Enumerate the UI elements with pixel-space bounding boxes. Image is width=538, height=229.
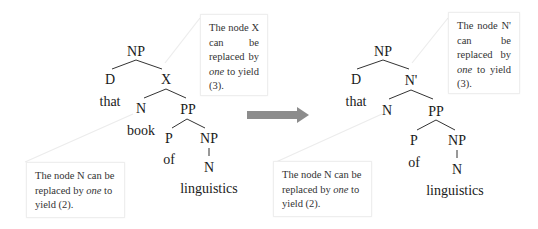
callout-text: The node N' can be replaced by — [457, 20, 511, 60]
callout-emphasis: one — [209, 66, 224, 77]
left-word-of: of — [163, 152, 175, 168]
diagram-canvas: NP D X that N PP book P NP of N linguist… — [0, 0, 538, 229]
left-node-x: X — [161, 72, 171, 88]
left-node-pp: PP — [180, 102, 196, 118]
left-node-np2: NP — [200, 131, 218, 147]
left-node-n: N — [136, 101, 146, 117]
callout-text: The node X can be replaced by — [209, 22, 259, 62]
left-callout-bottom: The node N can be replaced by one to yie… — [26, 162, 125, 218]
left-node-np: NP — [127, 44, 145, 60]
left-word-book: book — [127, 123, 155, 139]
right-node-n: N — [382, 103, 392, 119]
right-callout-bottom: The node N can be replaced by one to yie… — [273, 161, 372, 217]
right-word-linguistics: linguistics — [426, 183, 484, 199]
callout-emphasis: one — [457, 64, 472, 75]
left-word-that: that — [100, 94, 121, 110]
callout-emphasis: one — [86, 185, 101, 196]
right-node-n2: N — [452, 162, 462, 178]
right-node-p: P — [410, 133, 418, 149]
right-node-np: NP — [374, 44, 392, 60]
callout-emphasis: one — [333, 184, 348, 195]
right-callout-top: The node N' can be replaced by one to yi… — [448, 12, 520, 94]
left-node-d: D — [105, 72, 115, 88]
right-node-np2: NP — [448, 133, 466, 149]
left-word-linguistics: linguistics — [180, 181, 238, 197]
right-node-pp: PP — [428, 104, 444, 120]
transform-arrow-icon — [247, 107, 309, 123]
right-node-d: D — [351, 72, 361, 88]
left-node-n2: N — [204, 160, 214, 176]
right-node-nbar: N' — [405, 73, 418, 89]
left-node-p: P — [165, 131, 173, 147]
right-word-of: of — [408, 155, 420, 171]
left-callout-top: The node X can be replaced by one to yie… — [200, 14, 268, 96]
right-word-that: that — [346, 94, 367, 110]
